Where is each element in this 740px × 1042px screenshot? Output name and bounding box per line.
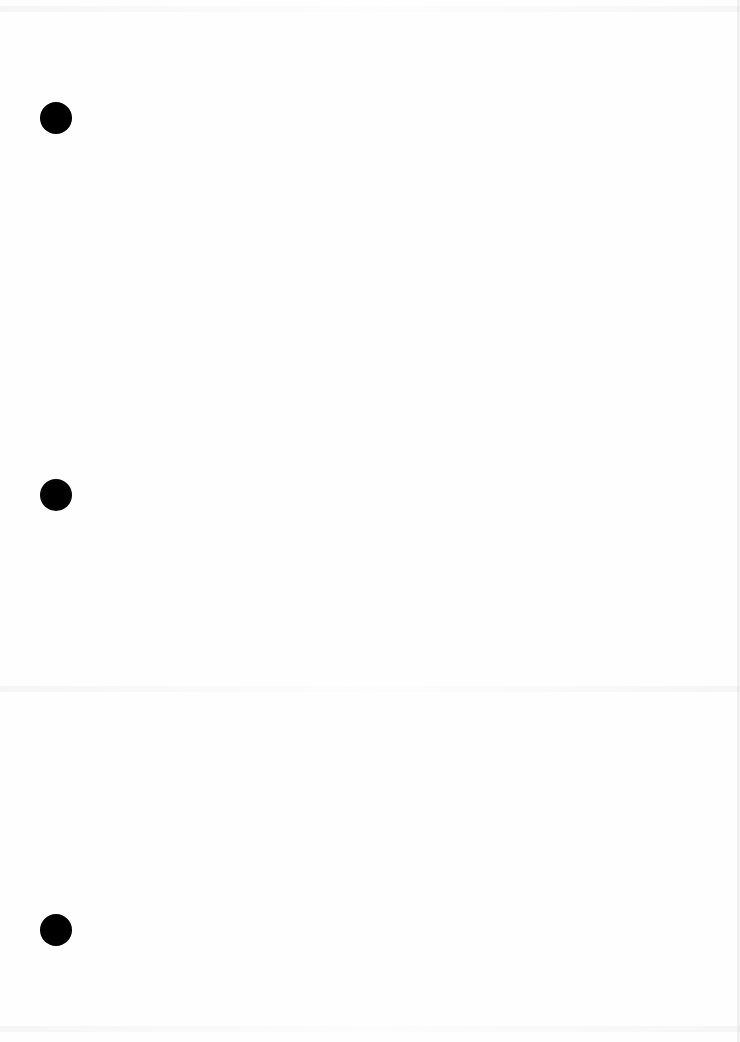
punch-hole-bottom — [40, 914, 72, 946]
punch-hole-top — [40, 102, 72, 134]
punch-hole-middle — [40, 479, 72, 511]
scanned-page — [0, 0, 740, 1042]
bottom-bleed-through — [0, 1026, 740, 1032]
top-bleed-through — [0, 6, 740, 12]
middle-bleed-through — [0, 686, 740, 692]
